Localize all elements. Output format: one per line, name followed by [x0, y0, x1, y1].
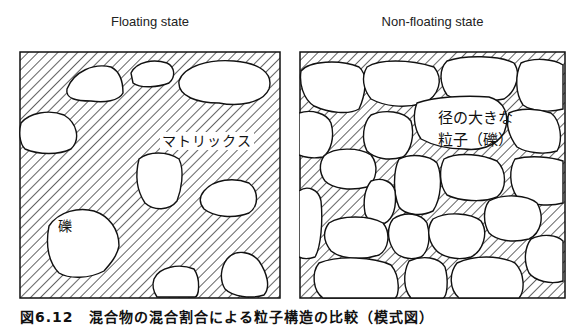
gravel-label: 礫: [58, 217, 72, 235]
non-floating-state-diagram: [299, 51, 566, 299]
large-particle-label-line2: 粒子（礫）: [438, 129, 513, 151]
large-particle-label-line1: 径の大きな: [438, 107, 513, 129]
large-particle-label: 径の大きな 粒子（礫）: [438, 107, 513, 151]
floating-state-diagram: [19, 51, 281, 299]
matrix-label: マトリックス: [160, 132, 254, 150]
panel-title-floating: Floating state: [20, 14, 280, 29]
figure-caption: 図6.12 混合物の混合割合による粒子構造の比較（模式図）: [20, 306, 434, 326]
panel-title-non-floating: Non-floating state: [300, 14, 565, 29]
